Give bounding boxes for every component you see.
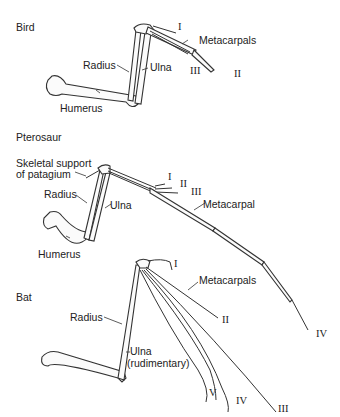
bird-label-ulna: Ulna: [150, 62, 172, 73]
pterosaur-digit-II: II: [180, 178, 187, 189]
section-title-pterosaur: Pterosaur: [16, 131, 62, 143]
pterosaur-label-metacarpal: Metacarpal: [203, 199, 255, 210]
pterosaur-label-ulna: Ulna: [110, 200, 132, 211]
bird-label-radius: Radius: [83, 60, 116, 71]
section-title-bat: Bat: [16, 291, 32, 303]
bat-digit-IV: IV: [236, 395, 247, 406]
pterosaur-label-radius: Radius: [44, 189, 77, 200]
pterosaur-digit-IV: IV: [316, 328, 327, 339]
pterosaur-wing-skeleton: [44, 165, 309, 330]
pterosaur-digit-III: III: [191, 186, 202, 197]
bat-label-ulna-line2: (rudimentary): [127, 358, 189, 369]
bird-wing-skeleton: [46, 24, 214, 107]
bat-label-radius: Radius: [70, 312, 103, 323]
pterosaur-digit-I: I: [168, 171, 172, 182]
bat-digit-II: II: [222, 314, 229, 325]
bat-digit-V: V: [209, 387, 217, 398]
bird-digit-I: I: [178, 21, 182, 32]
bat-label-ulna-line1: Ulna: [130, 346, 152, 357]
bird-digit-III: III: [190, 65, 201, 76]
pterosaur-label-patagium-line2: of patagium: [16, 169, 71, 180]
bird-label-humerus: Humerus: [60, 103, 103, 114]
bat-label-metacarpals: Metacarpals: [199, 275, 256, 286]
section-title-bird: Bird: [16, 21, 35, 33]
pterosaur-label-humerus: Humerus: [38, 249, 81, 260]
bat-digit-III: III: [278, 403, 289, 414]
bat-digit-I: I: [174, 258, 178, 269]
bird-digit-II: II: [234, 68, 241, 79]
bird-label-metacarpals: Metacarpals: [199, 35, 256, 46]
